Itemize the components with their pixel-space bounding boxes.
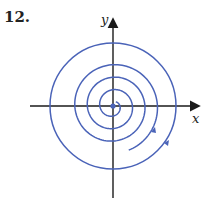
inner-spiral: [75, 65, 158, 150]
x-axis-label: x: [192, 111, 200, 126]
y-axis-label: y: [100, 12, 109, 27]
phase-diagram: x y: [0, 0, 214, 199]
equilibrium-point: [110, 103, 115, 108]
